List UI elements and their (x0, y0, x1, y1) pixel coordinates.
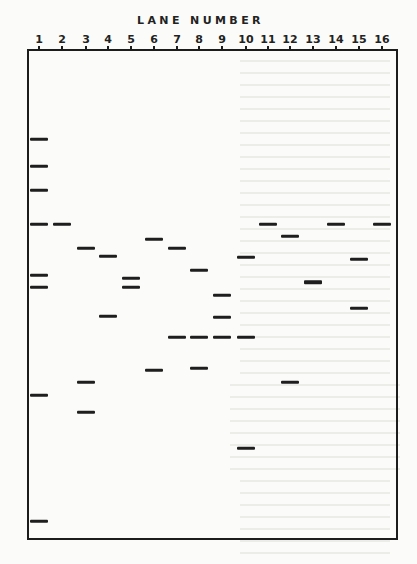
lane-tick-10 (245, 46, 247, 50)
band-lane-15 (350, 258, 368, 261)
lane-tick-9 (221, 46, 223, 50)
band-lane-8 (190, 367, 208, 370)
band-lane-13 (304, 280, 322, 284)
band-lane-3 (77, 411, 95, 414)
lane-label-9: 9 (218, 33, 226, 46)
lane-label-16: 16 (374, 33, 389, 46)
lane-label-12: 12 (282, 33, 297, 46)
band-lane-12 (281, 381, 299, 384)
lane-label-8: 8 (195, 33, 203, 46)
figure-title: LANE NUMBER (137, 14, 243, 27)
band-lane-1 (30, 286, 48, 289)
band-lane-6 (145, 369, 163, 372)
band-lane-10 (237, 336, 255, 339)
band-lane-9 (213, 294, 231, 297)
band-lane-1 (30, 520, 48, 523)
lane-tick-13 (312, 46, 314, 50)
band-lane-3 (77, 247, 95, 250)
band-lane-4 (99, 255, 117, 258)
band-lane-7 (168, 247, 186, 250)
lane-label-7: 7 (173, 33, 181, 46)
band-lane-8 (190, 336, 208, 339)
lane-tick-2 (61, 46, 63, 50)
lane-tick-7 (176, 46, 178, 50)
lane-label-15: 15 (351, 33, 366, 46)
band-lane-10 (237, 447, 255, 450)
band-lane-2 (53, 223, 71, 226)
band-lane-3 (77, 381, 95, 384)
lane-tick-15 (358, 46, 360, 50)
lane-tick-8 (198, 46, 200, 50)
band-lane-1 (30, 189, 48, 192)
lane-tick-14 (335, 46, 337, 50)
band-lane-1 (30, 165, 48, 168)
band-lane-8 (190, 269, 208, 272)
band-lane-5 (122, 277, 140, 280)
band-lane-7 (168, 336, 186, 339)
band-lane-1 (30, 274, 48, 277)
band-lane-1 (30, 138, 48, 141)
band-lane-1 (30, 394, 48, 397)
lane-label-4: 4 (104, 33, 112, 46)
band-lane-5 (122, 286, 140, 289)
lane-label-5: 5 (127, 33, 135, 46)
lane-label-10: 10 (238, 33, 253, 46)
lane-tick-5 (130, 46, 132, 50)
band-lane-15 (350, 307, 368, 310)
lane-tick-3 (85, 46, 87, 50)
lane-tick-4 (107, 46, 109, 50)
band-lane-12 (281, 235, 299, 238)
band-lane-4 (99, 315, 117, 318)
lane-label-1: 1 (35, 33, 43, 46)
band-lane-9 (213, 316, 231, 319)
lane-tick-16 (381, 46, 383, 50)
lane-tick-11 (267, 46, 269, 50)
band-lane-11 (259, 223, 277, 226)
lane-label-11: 11 (260, 33, 275, 46)
band-lane-9 (213, 336, 231, 339)
lane-label-14: 14 (328, 33, 343, 46)
lane-label-6: 6 (150, 33, 158, 46)
band-lane-16 (373, 223, 391, 226)
lane-tick-6 (153, 46, 155, 50)
band-lane-1 (30, 223, 48, 226)
lane-label-13: 13 (305, 33, 320, 46)
lane-label-2: 2 (58, 33, 66, 46)
lane-label-3: 3 (82, 33, 90, 46)
lane-tick-12 (289, 46, 291, 50)
lane-tick-1 (38, 46, 40, 50)
band-lane-6 (145, 238, 163, 241)
band-lane-14 (327, 223, 345, 226)
band-lane-10 (237, 256, 255, 259)
